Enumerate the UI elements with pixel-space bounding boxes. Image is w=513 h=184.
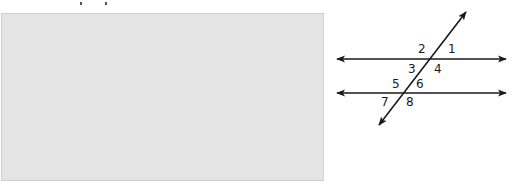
transversal-diagram: 12345678 xyxy=(0,0,513,184)
angle-labels-group: 12345678 xyxy=(381,42,456,109)
angle-label-2: 2 xyxy=(418,42,426,56)
angle-label-8: 8 xyxy=(406,95,414,109)
angle-label-1: 1 xyxy=(448,42,456,56)
angle-label-6: 6 xyxy=(416,77,424,91)
angle-label-4: 4 xyxy=(434,62,442,76)
lines-group xyxy=(337,12,506,125)
angle-label-7: 7 xyxy=(381,95,389,109)
angle-label-5: 5 xyxy=(392,77,400,91)
angle-label-3: 3 xyxy=(408,62,416,76)
transversal xyxy=(379,12,466,125)
